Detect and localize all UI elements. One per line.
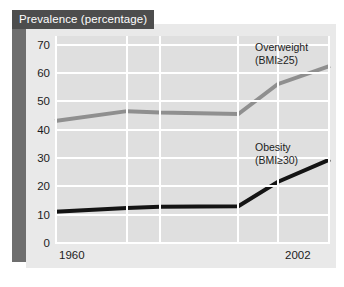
gridline-horizontal: [55, 129, 330, 131]
x-axis-tick-end: 2002: [285, 249, 311, 261]
x-axis-tick-start: 1960: [59, 249, 85, 261]
y-axis-tick-label: 20: [20, 180, 50, 192]
gridline-vertical: [159, 36, 161, 243]
series-lines: [55, 36, 330, 243]
y-axis-tick-label: 50: [20, 95, 50, 107]
series-line: [55, 66, 330, 121]
y-axis-tick-label: 70: [20, 39, 50, 51]
gridline-vertical: [237, 36, 239, 243]
gridline-horizontal: [55, 72, 330, 74]
gridline-horizontal: [55, 100, 330, 102]
chart-figure: 706050403020100 Prevalence (percentage) …: [0, 0, 344, 287]
gridline-vertical: [277, 36, 279, 243]
y-axis-tick-label: 10: [20, 209, 50, 221]
plot-area: [55, 36, 330, 243]
series-label-obesity: Obesity (BMI≥30): [255, 141, 298, 166]
gridline-horizontal: [55, 214, 330, 216]
gridline-horizontal: [55, 185, 330, 187]
series-label-overweight: Overweight (BMI≥25): [255, 41, 308, 66]
gridline-vertical: [55, 36, 57, 243]
y-axis-ticks: 706050403020100: [16, 36, 50, 243]
gridline-horizontal: [55, 242, 330, 244]
gridline-vertical: [126, 36, 128, 243]
y-axis-tick-label: 60: [20, 67, 50, 79]
y-axis-tick-label: 40: [20, 124, 50, 136]
series-label-overweight-line1: Overweight: [255, 41, 308, 54]
chart-title: Prevalence (percentage): [12, 10, 154, 29]
gridline-vertical: [328, 36, 330, 243]
series-label-obesity-line1: Obesity: [255, 141, 298, 154]
y-axis-tick-label: 30: [20, 152, 50, 164]
y-axis-tick-label: 0: [20, 237, 50, 249]
series-label-obesity-line2: (BMI≥30): [255, 154, 298, 167]
series-label-overweight-line2: (BMI≥25): [255, 54, 308, 67]
